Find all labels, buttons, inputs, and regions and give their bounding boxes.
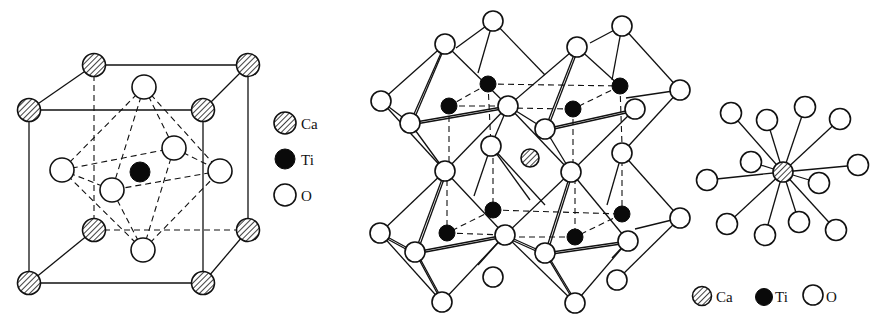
- ca-atom: [18, 99, 41, 122]
- legend-left: Ca Ti O: [274, 112, 318, 206]
- o-atom: [535, 243, 555, 263]
- legend-ca-icon: [274, 112, 296, 134]
- legend-o-icon: [803, 285, 823, 305]
- o-atom: [717, 214, 738, 235]
- o-atom: [561, 162, 581, 182]
- o-atom: [208, 159, 232, 183]
- o-atom: [826, 220, 847, 241]
- o-atom: [483, 11, 503, 31]
- legend-ti-label: Ti: [775, 289, 788, 305]
- ti-atom: [480, 76, 496, 92]
- o-atom: [405, 242, 425, 262]
- ti-atom: [567, 229, 583, 245]
- octahedron-bottom-right: [505, 153, 680, 303]
- octahedron-top-back-left: [449, 21, 622, 200]
- o-atom: [483, 267, 503, 287]
- o-atom: [131, 238, 155, 262]
- o-atom: [789, 212, 810, 233]
- o-atom: [565, 293, 585, 313]
- ca-atom: [192, 99, 215, 122]
- o-atom: [498, 96, 518, 116]
- o-atom: [371, 91, 391, 111]
- octahedra-network-panel: [370, 11, 690, 313]
- o-atom: [809, 173, 830, 194]
- o-atom: [495, 225, 515, 245]
- legend-ti-label: Ti: [301, 152, 314, 168]
- ti-atom: [441, 98, 457, 114]
- o-atom: [830, 109, 851, 130]
- unit-cell-panel: [18, 54, 260, 295]
- o-atom: [612, 16, 632, 36]
- legend-o-label: O: [301, 188, 312, 204]
- o-atom: [721, 103, 742, 124]
- ti-atom: [565, 101, 581, 117]
- legend-ca-label: Ca: [301, 116, 318, 132]
- legend-ca-label: Ca: [716, 289, 733, 305]
- legend-o-label: O: [826, 289, 837, 305]
- legend-right: Ca Ti O: [693, 285, 838, 306]
- o-atom: [670, 208, 690, 228]
- perovskite-figure: Ca Ti O: [0, 0, 885, 331]
- ti-atom: [485, 202, 501, 218]
- o-atom: [567, 37, 587, 57]
- o-atom: [162, 136, 186, 160]
- o-atom: [625, 99, 645, 119]
- o-atom: [435, 34, 455, 54]
- legend-o-icon: [274, 184, 296, 206]
- o-atom: [400, 113, 420, 133]
- ca-coordination-panel: [697, 97, 869, 246]
- o-atom: [100, 178, 124, 202]
- legend-ti-icon: [275, 149, 295, 169]
- ca-atom: [192, 272, 215, 295]
- o-atom: [370, 223, 390, 243]
- o-atom: [757, 110, 778, 131]
- o-atom: [50, 158, 74, 182]
- ti-atom: [612, 78, 628, 94]
- legend-ti-icon: [756, 289, 773, 306]
- ca-atom: [521, 149, 539, 167]
- o-atom: [607, 270, 627, 290]
- o-atom: [848, 155, 869, 176]
- ca-atom: [18, 272, 41, 295]
- o-atom: [670, 80, 690, 100]
- o-atom: [432, 292, 452, 312]
- ca-atom: [773, 162, 793, 182]
- o-atom: [535, 119, 555, 139]
- ti-atom: [614, 206, 630, 222]
- o-atom: [481, 136, 501, 156]
- o-atom: [697, 170, 718, 191]
- o-atom: [612, 143, 632, 163]
- o-atom: [132, 75, 156, 99]
- ca-atom: [237, 219, 260, 242]
- ti-atom: [130, 162, 150, 182]
- o-atom: [741, 152, 762, 173]
- legend-ca-icon: [693, 287, 712, 306]
- o-atom: [755, 225, 776, 246]
- ca-atom: [83, 219, 106, 242]
- ti-atom: [439, 225, 455, 241]
- ca-atom: [237, 54, 260, 77]
- ca-atom: [83, 54, 106, 77]
- o-atom: [435, 161, 455, 181]
- o-atom: [795, 97, 816, 118]
- o-atom: [618, 231, 638, 251]
